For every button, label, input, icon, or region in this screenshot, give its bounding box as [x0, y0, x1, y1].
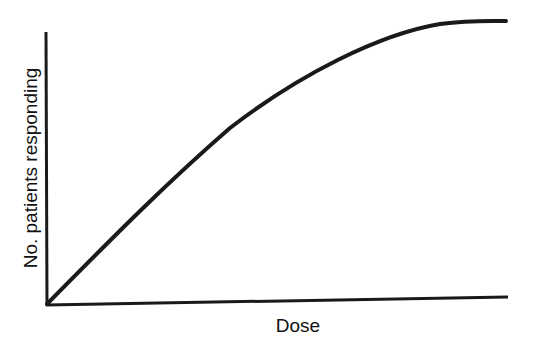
x-axis-label: Dose	[276, 315, 320, 336]
x-axis	[46, 297, 508, 305]
y-axis-label: No. patients responding	[20, 68, 41, 269]
dose-response-curve	[47, 21, 506, 304]
dose-response-chart: Dose No. patients responding	[0, 0, 534, 357]
y-axis	[46, 32, 47, 306]
